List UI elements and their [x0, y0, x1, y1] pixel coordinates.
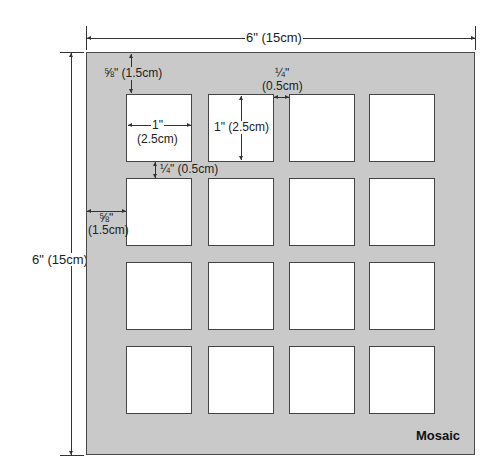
top-margin-label: ⅝" (1.5cm) [103, 67, 163, 80]
height-extension-bottom [60, 455, 84, 456]
window-r2-c3 [289, 178, 355, 246]
window-r3-c1 [126, 262, 192, 330]
window-width-label-1: 1" [151, 119, 164, 132]
arrow-right-icon [471, 36, 475, 40]
window-r1-c4 [369, 94, 435, 162]
v-gap-label: ¼" (0.5cm) [160, 163, 218, 176]
arrow-down-icon [129, 89, 133, 93]
width-label: 6" (15cm) [245, 31, 303, 44]
window-r4-c3 [289, 346, 355, 414]
window-r3-c3 [289, 262, 355, 330]
arrow-right-icon [122, 209, 126, 213]
mosaic-title: Mosaic [416, 428, 460, 443]
arrow-down-icon [153, 174, 157, 178]
width-extension-right [475, 26, 476, 50]
arrow-down-icon [69, 451, 73, 455]
arrow-up-icon [129, 54, 133, 58]
h-gap-label-2: (0.5cm) [262, 80, 303, 93]
window-r2-c4 [369, 178, 435, 246]
height-label: 6" (15cm) [31, 253, 89, 266]
window-r2-c2 [208, 178, 274, 246]
left-margin-label-2: (1.5cm) [88, 224, 129, 237]
arrow-right-icon [187, 123, 191, 127]
window-r3-c2 [208, 262, 274, 330]
window-height-label: 1" (2.5cm) [213, 121, 270, 134]
window-width-label-2: (2.5cm) [137, 133, 178, 146]
window-r4-c4 [369, 346, 435, 414]
arrow-left-icon [274, 95, 278, 99]
window-r3-c4 [369, 262, 435, 330]
window-r2-c1 [126, 178, 192, 246]
arrow-up-icon [69, 53, 73, 57]
window-r4-c2 [208, 346, 274, 414]
arrow-up-icon [153, 162, 157, 166]
arrow-down-icon [239, 156, 243, 160]
arrow-right-icon [285, 95, 289, 99]
arrow-left-icon [87, 209, 91, 213]
arrow-up-icon [239, 96, 243, 100]
window-r4-c1 [126, 346, 192, 414]
arrow-left-icon [87, 36, 91, 40]
window-r1-c3 [289, 94, 355, 162]
arrow-left-icon [128, 123, 132, 127]
